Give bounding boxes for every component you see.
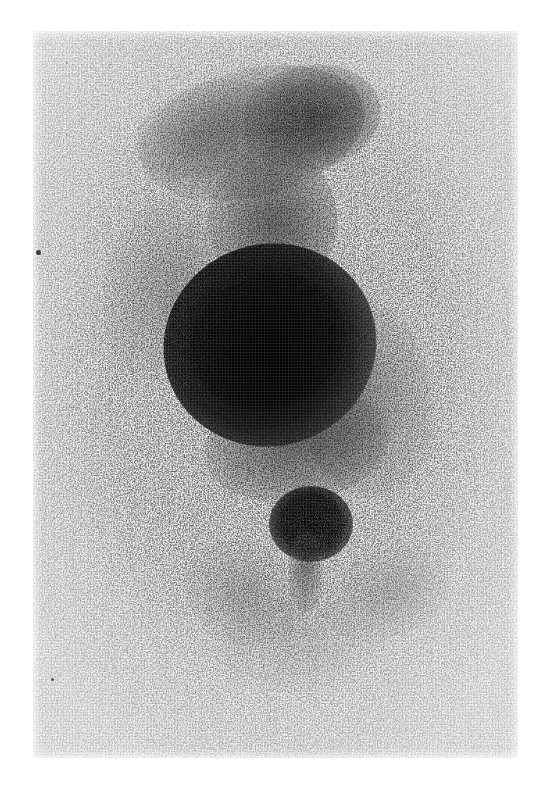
region-hot-mass-core <box>172 251 365 432</box>
region-mediastinal-column <box>209 146 337 296</box>
region-pelvic-left-spill <box>168 524 322 665</box>
region-focal-hot-spot <box>269 486 353 562</box>
scan-film-plate <box>33 31 518 758</box>
region-upper-left-wing <box>120 60 292 198</box>
activity-map <box>33 31 518 758</box>
region-sub-hepatic-band <box>197 376 397 515</box>
scintigram-viewer <box>0 0 546 793</box>
region-inferior-faint-trail <box>218 596 374 692</box>
region-pelvic-right-spill <box>310 528 466 661</box>
region-upper-diffuse-uptake <box>125 43 379 223</box>
region-right-lateral-halo <box>288 293 442 506</box>
region-dominant-hot-mass <box>137 216 403 474</box>
region-left-lateral-halo <box>86 181 247 393</box>
region-upper-right-shoulder-uptake <box>233 54 389 181</box>
region-hot-spot-tail <box>289 534 323 612</box>
